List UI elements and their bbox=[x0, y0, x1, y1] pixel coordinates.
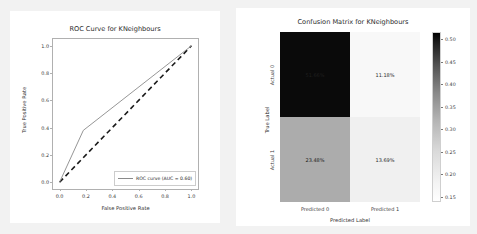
colorbar-tick-4: 0.30 bbox=[445, 127, 456, 132]
roc-xaxis-label: False Positive Rate bbox=[52, 205, 199, 211]
colorbar-tickmark-0 bbox=[441, 39, 443, 40]
legend-line-swatch bbox=[118, 178, 133, 179]
confusion-cell-r1-c1: 13.69% bbox=[350, 117, 420, 202]
colorbar-tickmark-1 bbox=[441, 62, 443, 63]
confusion-matrix-plot-area: 51.66%11.18%23.48%13.69% bbox=[280, 32, 420, 202]
roc-ytick-3: 0.6 bbox=[36, 97, 49, 103]
colorbar-gradient bbox=[432, 32, 441, 202]
confusion-cell-r0-c0: 51.66% bbox=[280, 32, 350, 117]
colorbar-tick-7: 0.15 bbox=[445, 194, 456, 199]
confusion-xtick-0: Predicted 0 bbox=[301, 206, 329, 212]
roc-figure-panel: ROC Curve for KNeighbours 0.00.20.40.60.… bbox=[10, 11, 220, 223]
roc-yaxis-label: True Positive Rate bbox=[21, 70, 27, 150]
roc-ytickmark-0 bbox=[50, 182, 52, 183]
confusion-xtick-1: Predicted 1 bbox=[371, 206, 399, 212]
roc-xtick-4: 0.8 bbox=[161, 193, 169, 199]
roc-xtick-1: 0.2 bbox=[82, 193, 90, 199]
confusion-cell-r1-c0: 23.48% bbox=[280, 117, 350, 202]
roc-xtick-5: 1.0 bbox=[188, 193, 196, 199]
colorbar-tickmark-6 bbox=[441, 174, 443, 175]
roc-xtick-2: 0.4 bbox=[108, 193, 116, 199]
roc-legend: ROC curve (AUC = 0.60) bbox=[114, 171, 196, 186]
confusion-matrix-xaxis-label: Predicted Label bbox=[280, 217, 420, 223]
roc-ytickmark-4 bbox=[50, 73, 52, 74]
roc-xtick-0: 0.0 bbox=[56, 193, 64, 199]
roc-xtickmark-1 bbox=[86, 189, 87, 191]
confusion-matrix-figure-panel: Confusion Matrix for KNeighbours 51.66%1… bbox=[236, 8, 470, 226]
colorbar-tick-6: 0.20 bbox=[445, 172, 456, 177]
roc-ytickmark-5 bbox=[50, 46, 52, 47]
roc-chart-title: ROC Curve for KNeighbours bbox=[10, 25, 220, 33]
roc-ytick-0: 0.0 bbox=[36, 179, 49, 185]
roc-xtickmark-3 bbox=[139, 189, 140, 191]
roc-ytickmark-1 bbox=[50, 155, 52, 156]
roc-xtickmark-0 bbox=[60, 189, 61, 191]
legend-label-roc-curve: ROC curve (AUC = 0.60) bbox=[136, 176, 192, 181]
colorbar-tickmark-7 bbox=[441, 197, 443, 198]
roc-curve-svg bbox=[53, 39, 198, 189]
colorbar-tick-5: 0.25 bbox=[445, 149, 456, 154]
roc-xtickmark-5 bbox=[191, 189, 192, 191]
roc-ytickmark-3 bbox=[50, 100, 52, 101]
colorbar-tickmark-4 bbox=[441, 129, 443, 130]
confusion-matrix-yaxis-label: True Label bbox=[264, 80, 270, 160]
confusion-cell-value: 11.18% bbox=[375, 72, 394, 78]
roc-plot-area bbox=[52, 38, 199, 190]
roc-xtick-3: 0.6 bbox=[135, 193, 143, 199]
colorbar-tickmark-3 bbox=[441, 107, 443, 108]
confusion-cell-r0-c1: 11.18% bbox=[350, 32, 420, 117]
confusion-cell-value: 13.69% bbox=[375, 157, 394, 163]
roc-xtickmark-2 bbox=[112, 189, 113, 191]
colorbar-tickmark-2 bbox=[441, 84, 443, 85]
roc-ytickmark-2 bbox=[50, 128, 52, 129]
roc-ytick-5: 1.0 bbox=[36, 43, 49, 49]
confusion-cell-value: 51.66% bbox=[305, 72, 324, 78]
roc-ytick-4: 0.8 bbox=[36, 70, 49, 76]
confusion-cell-value: 23.48% bbox=[305, 157, 324, 163]
screenshot-page: ROC Curve for KNeighbours 0.00.20.40.60.… bbox=[0, 0, 477, 234]
roc-xtickmark-4 bbox=[165, 189, 166, 191]
colorbar-tick-1: 0.45 bbox=[445, 59, 456, 64]
colorbar-tickmark-5 bbox=[441, 152, 443, 153]
confusion-matrix-title: Confusion Matrix for KNeighbours bbox=[236, 18, 470, 26]
colorbar-tick-0: 0.50 bbox=[445, 37, 456, 42]
chance-diagonal-line bbox=[60, 46, 192, 182]
roc-ytick-2: 0.4 bbox=[36, 125, 49, 131]
colorbar-tick-3: 0.35 bbox=[445, 104, 456, 109]
confusion-matrix-grid: 51.66%11.18%23.48%13.69% bbox=[280, 32, 420, 202]
roc-ytick-1: 0.2 bbox=[36, 152, 49, 158]
colorbar-tick-2: 0.40 bbox=[445, 82, 456, 87]
